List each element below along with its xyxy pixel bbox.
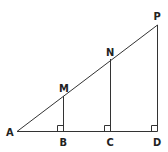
point-label-C: C xyxy=(107,136,114,149)
right-angle-marker-C xyxy=(105,126,111,132)
point-label-P: P xyxy=(154,10,161,23)
point-label-D: D xyxy=(153,136,161,149)
similar-triangles-diagram: A B C D M N P xyxy=(0,0,168,152)
segment-AP xyxy=(17,25,158,132)
point-label-A: A xyxy=(6,126,14,139)
right-angle-marker-B xyxy=(58,126,64,132)
point-label-M: M xyxy=(59,82,69,95)
point-label-N: N xyxy=(106,46,114,59)
point-label-B: B xyxy=(60,136,68,149)
right-angle-marker-D xyxy=(152,126,158,132)
